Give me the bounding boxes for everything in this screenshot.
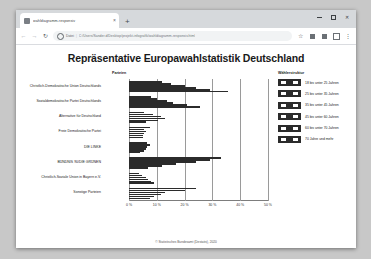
category-label: Sozialdemokratische Partei Deutschlands <box>36 99 101 103</box>
legend-swatch <box>278 102 301 109</box>
legend-label: 35 bis unter 45 Jahren <box>305 103 339 107</box>
reload-icon[interactable]: ↻ <box>42 33 49 39</box>
bar-group <box>129 140 268 155</box>
bar <box>129 167 148 169</box>
page-icon <box>24 18 30 24</box>
close-icon[interactable]: × <box>111 18 116 23</box>
new-tab-button[interactable]: + <box>125 18 130 26</box>
x-axis-tick-label: 20 % <box>181 203 189 207</box>
back-icon[interactable]: ← <box>20 33 27 39</box>
extension-icon[interactable] <box>308 32 316 40</box>
omnibox-scheme: Datei <box>66 34 74 38</box>
legend-title: Wählerstruktur <box>278 71 371 75</box>
bar-group <box>129 171 268 186</box>
tab-title: wahldiagramm-responsiv <box>33 19 111 23</box>
legend-item[interactable]: 35 bis unter 45 Jahren <box>278 102 371 109</box>
address-bar[interactable]: Datei | C:/Users/Sander.d/Desktop/projek… <box>53 31 292 41</box>
x-axis-tick-label: 10 % <box>153 203 161 207</box>
star-icon[interactable]: ☆ <box>296 32 304 40</box>
bar <box>129 198 150 200</box>
bar <box>129 91 228 93</box>
menu-kebab-icon[interactable]: ⋮ <box>344 32 352 40</box>
browser-toolbar: ← → ↻ Datei | C:/Users/Sander.d/Desktop/… <box>16 28 356 45</box>
category-label: DIE LINKE <box>84 145 101 149</box>
page-title: Repräsentative Europawahlstatistik Deuts… <box>16 52 356 64</box>
x-axis-tick-label: 30 % <box>208 203 216 207</box>
close-window-button[interactable]: ✕ <box>340 11 354 23</box>
legend-swatch <box>278 125 301 132</box>
bar-group <box>129 79 268 94</box>
info-circle-icon <box>57 33 64 40</box>
category-label: Christlich-Soziale Union in Bayern e.V. <box>41 175 101 179</box>
legend-swatch <box>278 113 301 120</box>
x-axis-tick-label: 50 % <box>264 203 272 207</box>
legend-swatch <box>278 79 301 86</box>
legend-item[interactable]: 60 bis unter 70 Jahren <box>278 125 371 132</box>
browser-window: wahldiagramm-responsiv × + ✕ ← → ↻ Datei… <box>16 10 356 248</box>
legend-item[interactable]: 25 bis unter 35 Jahren <box>278 90 371 97</box>
omnibox-separator: | <box>76 34 77 38</box>
category-label: Alternative für Deutschland <box>59 114 101 118</box>
page-content: Repräsentative Europawahlstatistik Deuts… <box>16 45 356 248</box>
apps-icon[interactable] <box>320 32 328 40</box>
bar-group <box>129 186 268 201</box>
bar-group <box>129 125 268 140</box>
category-label: Freie Demokratische Partei <box>59 129 101 133</box>
tab-strip: wahldiagramm-responsiv × + ✕ <box>16 10 356 28</box>
category-label: Sonstige Parteien <box>73 190 101 194</box>
source-note: © Statistisches Bundesamt (Destatis), 20… <box>16 240 356 244</box>
bar <box>129 182 154 184</box>
bar <box>129 152 140 154</box>
legend-label: 70 Jahre und mehr <box>305 137 333 141</box>
legend-label: 45 bis unter 60 Jahren <box>305 115 339 119</box>
forward-icon[interactable]: → <box>31 33 38 39</box>
legend-label: 25 bis unter 35 Jahren <box>305 92 339 96</box>
x-axis-tick-label: 40 % <box>236 203 244 207</box>
legend-swatch <box>278 90 301 97</box>
category-label: Christlich-Demokratische Union Deutschla… <box>30 84 101 88</box>
legend-swatch <box>278 136 301 143</box>
legend-item[interactable]: 45 bis unter 60 Jahren <box>278 113 371 120</box>
minimize-button[interactable] <box>312 11 326 23</box>
legend-label: 60 bis unter 70 Jahren <box>305 126 339 130</box>
gridline <box>268 79 269 201</box>
window-controls: ✕ <box>312 11 354 23</box>
bar-group <box>129 155 268 170</box>
bar-group <box>129 110 268 125</box>
bar <box>129 106 200 108</box>
legend-item[interactable]: 18 bis unter 25 Jahren <box>278 79 371 86</box>
chart-area: Parteien 0 %10 %20 %30 %40 %50 % Wählers… <box>16 71 356 248</box>
omnibox-url: C:/Users/Sander.d/Desktop/projekt-infogr… <box>79 34 195 38</box>
browser-tab[interactable]: wahldiagramm-responsiv × <box>20 13 119 28</box>
plot-region: 0 %10 %20 %30 %40 %50 % <box>129 79 268 201</box>
legend-item[interactable]: 70 Jahre und mehr <box>278 136 371 143</box>
legend: Wählerstruktur 18 bis unter 25 Jahren25 … <box>278 71 371 147</box>
maximize-button[interactable] <box>326 11 340 23</box>
x-axis-tick-label: 0 % <box>126 203 132 207</box>
category-label: BÜNDNIS 90/DIE GRÜNEN <box>57 160 101 164</box>
legend-label: 18 bis unter 25 Jahren <box>305 81 339 85</box>
bar <box>129 121 146 123</box>
bar <box>129 137 143 139</box>
profile-icon[interactable] <box>332 32 340 40</box>
column-header-parteien: Parteien <box>112 71 126 75</box>
bar-group <box>129 94 268 109</box>
